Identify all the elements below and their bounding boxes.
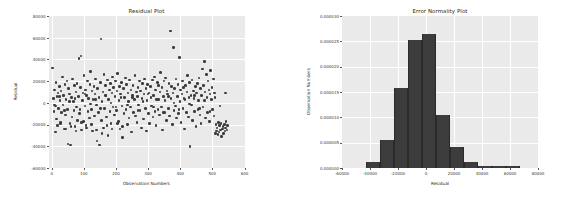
scatter-point [149,85,152,88]
scatter-point [97,111,100,114]
scatter-point [120,96,123,99]
scatter-point [102,91,105,94]
x-tick-mark [84,168,85,170]
scatter-point [211,108,214,111]
scatter-point [201,68,204,71]
y-tick-mark [47,81,49,82]
scatter-point [109,82,112,85]
histogram-bar [478,166,492,168]
scatter-point [159,71,162,74]
scatter-point [96,140,99,143]
scatter-point [194,85,197,88]
scatter-point [56,124,59,127]
scatter-point [140,127,143,130]
scatter-point [190,94,193,97]
scatter-point [137,86,140,89]
y-tick-mark [47,59,49,60]
scatter-point [118,85,121,88]
scatter-point [104,84,107,87]
scatter-point [191,119,194,122]
scatter-point [224,92,227,95]
scatter-point [130,131,133,134]
scatter-point [175,117,178,120]
scatter-point [136,121,139,124]
scatter-point [206,96,209,99]
x-tick-label: 500 [197,171,227,176]
scatter-point [128,117,131,120]
histogram-bar [506,166,520,168]
scatter-point [83,74,86,77]
y-tick-label: 40000 [12,57,46,62]
error-normality-plot-x-axis-label: Residual [342,181,538,186]
scatter-point [66,108,69,111]
y-tick-mark [47,125,49,126]
scatter-point [200,94,203,97]
scatter-point [187,116,190,119]
scatter-point [123,112,126,115]
scatter-point [125,108,128,111]
x-tick-mark [426,168,427,170]
scatter-point [168,115,171,118]
scatter-point [213,92,216,95]
y-tick-label: 0.000015 [305,90,339,95]
scatter-point [89,83,92,86]
scatter-point [156,81,159,84]
x-tick-label: 40000 [467,171,497,176]
y-tick-mark [47,168,49,169]
scatter-point [198,107,201,110]
scatter-point [107,98,110,101]
scatter-point [204,117,207,120]
scatter-point [91,130,94,133]
scatter-point [162,95,165,98]
scatter-point [93,85,96,88]
scatter-point [119,128,122,131]
scatter-point [164,99,167,102]
scatter-point [188,103,191,106]
scatter-point [55,118,58,121]
scatter-point [71,78,74,81]
scatter-point [179,89,182,92]
scatter-point [157,108,160,111]
histogram-bar [450,147,464,168]
gridline-horizontal [49,38,245,39]
scatter-point [127,100,130,103]
scatter-point [108,89,111,92]
scatter-point [209,69,212,72]
y-tick-label: 0.000025 [305,39,339,44]
scatter-point [208,89,211,92]
scatter-point [112,86,115,89]
y-tick-mark [47,16,49,17]
error-normality-plot-subplot: Error Normality Plot Residual Observatio… [294,0,588,197]
y-tick-mark [340,41,342,42]
residual-plot-title: Residual Plot [49,8,245,14]
scatter-point [169,30,172,33]
scatter-point [75,91,78,94]
x-tick-label: 600 [230,171,260,176]
scatter-point [178,56,181,59]
scatter-point [195,125,198,128]
scatter-point [186,74,189,77]
scatter-point [91,90,94,93]
y-tick-mark [340,16,342,17]
scatter-point [94,78,97,81]
scatter-point [173,87,176,90]
scatter-point [214,96,217,99]
scatter-point [105,116,108,119]
y-tick-mark [340,117,342,118]
scatter-point [219,105,222,108]
scatter-point [74,125,77,128]
scatter-point [104,94,107,97]
scatter-point [95,104,98,107]
scatter-point [120,81,123,84]
scatter-point [130,89,133,92]
scatter-point [87,110,90,113]
scatter-point [193,97,196,100]
scatter-point [137,104,140,107]
residual-plot-x-axis-label: Observation Numbers [49,181,245,186]
scatter-point [94,98,97,101]
x-tick-mark [538,168,539,170]
scatter-point [181,93,184,96]
x-tick-label: -60000 [327,171,357,176]
scatter-point [134,74,137,77]
scatter-point [222,132,225,135]
